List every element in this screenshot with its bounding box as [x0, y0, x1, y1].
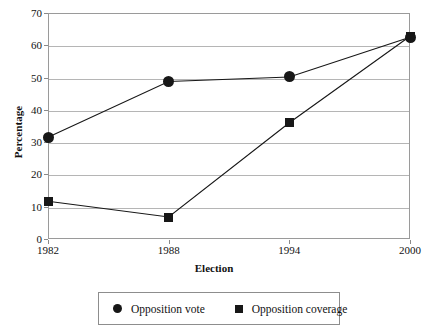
legend-label: Opposition vote [131, 303, 205, 315]
circle-marker-icon [113, 304, 122, 313]
chart-figure: 010203040506070 Percentage 1982198819942… [0, 0, 428, 335]
legend-label: Opposition coverage [252, 303, 348, 315]
legend-entry[interactable]: Opposition vote [113, 303, 205, 315]
legend: Opposition voteOpposition coverage [98, 292, 340, 325]
legend-entry[interactable]: Opposition coverage [235, 303, 348, 315]
series-lines [0, 0, 428, 335]
square-marker-icon [235, 305, 243, 313]
series-line [48, 37, 410, 137]
series-line [48, 36, 410, 217]
